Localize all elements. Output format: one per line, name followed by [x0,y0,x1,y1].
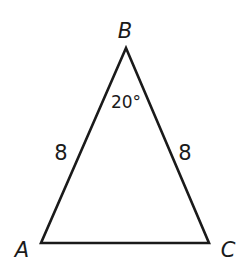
angle-label-b: 20° [111,92,141,112]
vertex-label-a: A [13,238,29,262]
triangle-diagram: B A C 8 8 20° [0,0,240,274]
side-label-ab: 8 [54,141,67,165]
vertex-label-c: C [221,238,236,262]
side-label-bc: 8 [178,141,191,165]
vertex-label-b: B [118,19,132,43]
